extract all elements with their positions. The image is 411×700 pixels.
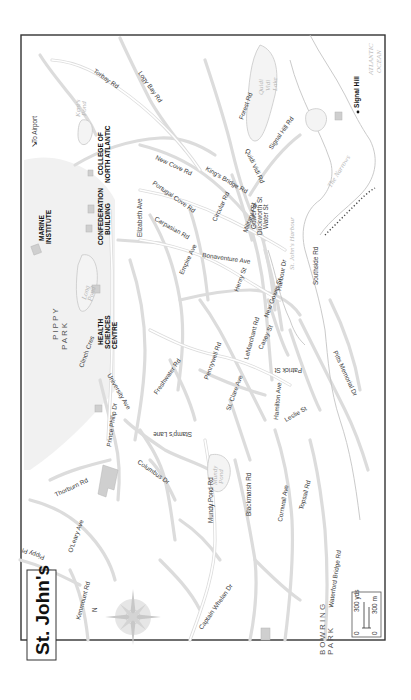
college-label: COLLEGE OFNORTH ATLANTIC <box>97 125 111 183</box>
street-label: Hamilton Ave <box>272 382 282 420</box>
street-label: Water St <box>262 204 269 229</box>
map-title: St. John's <box>32 565 53 655</box>
to-airport-label: To Airport <box>31 116 39 143</box>
signal-hill-pond <box>306 109 327 131</box>
airport-arrow-icon: ↗ <box>31 140 38 149</box>
street-label: Patrick St <box>274 367 302 374</box>
street-label: Stamp's Lane <box>153 430 192 438</box>
street-label: Elizabeth Ave <box>136 198 143 237</box>
scale-bar: 0 0 300 yds 300 m <box>352 590 381 637</box>
map-title-box: St. John's <box>27 565 56 660</box>
narrows-trail <box>325 188 375 235</box>
map-container: St. John's N 0 0 300 yds 300 m MARINEINS… <box>0 0 411 700</box>
street-label: Waterford Bridge Rd <box>327 549 343 608</box>
confederation-building-1 <box>88 205 94 213</box>
street-label: Bonaventure Ave <box>202 251 252 265</box>
signal-hill-dot <box>357 111 360 114</box>
north-label: N <box>91 607 98 612</box>
signal-hill-building <box>335 112 342 120</box>
scale-zero-1: 0 <box>353 631 360 635</box>
street-label: Leslie St <box>283 404 308 422</box>
st-johns-map: St. John's N 0 0 300 yds 300 m MARINEINS… <box>0 0 411 700</box>
street-label: Cornwall Ave <box>276 484 289 522</box>
street-label: Southside Rd <box>312 246 319 285</box>
bowring-building <box>261 628 270 640</box>
street-label: Signal Hill Rd <box>267 115 296 151</box>
street-label: St. Clare Ave <box>224 374 243 412</box>
street-label: Casey St <box>257 324 275 351</box>
scale-zero-2: 0 <box>371 631 378 635</box>
kents-pond-label: Kent'sPond <box>74 99 88 118</box>
street-label: LeMarchant Rd <box>242 316 260 360</box>
coastline <box>290 60 360 520</box>
street-label: Quidi Vidi Rd <box>243 147 266 184</box>
ocean-label: ATLANTICOCEAN <box>367 43 383 76</box>
street-label: Mundy Pond Rd <box>207 477 215 523</box>
scale-meters: 300 m <box>371 596 378 614</box>
bowring-park-label: BOWRINGPARK <box>318 602 335 655</box>
street-label: Blackmarsh Rd <box>245 472 252 516</box>
hsc-building-2 <box>95 405 102 412</box>
street-label: Topsail Rd <box>297 479 313 510</box>
college-building <box>88 170 93 176</box>
confederation-building-2 <box>86 225 92 232</box>
signal-hill-label: Signal Hill <box>353 76 361 108</box>
harbour-label: St. John's Harbour <box>288 217 296 270</box>
scale-yards: 300 yds <box>353 590 361 612</box>
